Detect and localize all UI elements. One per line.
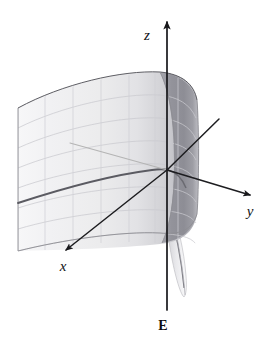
z-axis-label: z <box>143 27 150 43</box>
parabolic-cylinder-figure: z y x E <box>0 0 276 339</box>
x-axis-label: x <box>59 258 67 274</box>
y-axis-label: y <box>245 203 254 219</box>
math-figure-container: z y x E <box>0 0 276 339</box>
parabolic-cylinder-surface <box>18 71 200 297</box>
surface-label-E: E <box>158 318 167 333</box>
